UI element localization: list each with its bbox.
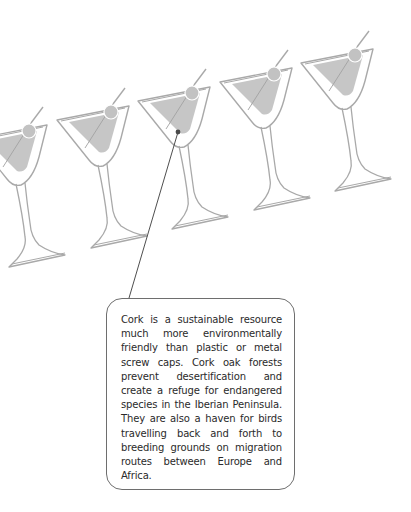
callout-text: Cork is a sustainable resource much more… <box>121 313 282 483</box>
callout-pointer-line <box>129 132 178 298</box>
martini-glass-2 <box>57 88 147 248</box>
callout-box: Cork is a sustainable resource much more… <box>106 298 295 490</box>
martini-glass-5 <box>301 31 391 191</box>
callout-pointer-dot <box>176 130 181 135</box>
martini-glass-4 <box>220 50 310 210</box>
martini-glass-3 <box>138 69 228 229</box>
martini-glass-1 <box>0 107 65 267</box>
